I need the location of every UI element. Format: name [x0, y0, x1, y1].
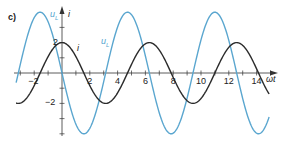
part-label: c)	[8, 12, 16, 22]
x-tick-label: 6	[143, 77, 148, 86]
chart-canvas	[0, 0, 285, 143]
curve-label-i: i	[77, 44, 79, 53]
y-axis-label-u: uL	[50, 10, 58, 21]
axes	[14, 6, 278, 136]
y-tick-label: 2	[53, 38, 58, 47]
x-tick-label: 8	[171, 77, 176, 86]
x-tick-label: 2	[87, 77, 92, 86]
y-axis-label-i: i	[68, 10, 70, 19]
x-tick-label: 14	[252, 77, 262, 86]
x-tick-label: 10	[196, 77, 206, 86]
x-tick-label: 4	[115, 77, 120, 86]
x-axis-label: ωt	[266, 75, 276, 84]
x-tick-label: 12	[224, 77, 234, 86]
curve-label-u-l: uL	[101, 37, 109, 48]
y-tick-label: −2	[45, 98, 55, 107]
x-tick-label: −2	[28, 77, 38, 86]
